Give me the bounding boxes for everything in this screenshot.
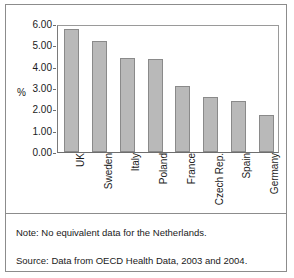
- source-text: Source: Data from OECD Health Data, 2003…: [16, 255, 278, 266]
- y-axis-tick-mark: [53, 110, 56, 111]
- y-axis-tick-label: 1.00: [22, 127, 52, 137]
- bar: [64, 29, 79, 152]
- footnote-divider: [6, 213, 286, 214]
- x-axis-tick-label: UK: [75, 153, 86, 213]
- bar: [259, 115, 274, 152]
- plot-area: [57, 25, 279, 153]
- x-axis-tick-label: Germany: [269, 153, 280, 213]
- y-axis-tick-mark: [53, 89, 56, 90]
- bar: [92, 41, 107, 152]
- figure-frame: % 6.005.004.003.002.001.000.00 UKSwedenI…: [5, 4, 287, 272]
- x-axis-tick-label: Czech Rep.: [214, 153, 225, 213]
- y-axis-tick-label: 3.00: [22, 84, 52, 94]
- x-axis-tick-labels: UKSwedenItalyPolandFranceCzech Rep.Spain…: [57, 155, 279, 213]
- bar: [175, 86, 190, 152]
- y-axis-tick-label: 2.00: [22, 105, 52, 115]
- bar: [120, 58, 135, 152]
- bar-series: [58, 26, 278, 152]
- y-axis-tick-mark: [53, 132, 56, 133]
- note-text: Note: No equivalent data for the Netherl…: [16, 227, 278, 238]
- x-axis-tick-label: France: [186, 153, 197, 213]
- y-axis-tick-label: 0.00: [22, 148, 52, 158]
- x-axis-tick-label: Spain: [241, 153, 252, 213]
- y-axis-tick-mark: [53, 46, 56, 47]
- x-axis-tick-label: Poland: [158, 153, 169, 213]
- y-axis-tick-labels: 6.005.004.003.002.001.000.00: [24, 5, 56, 213]
- bar: [203, 97, 218, 152]
- y-axis-tick-label: 6.00: [22, 20, 52, 30]
- y-axis-tick-mark: [53, 68, 56, 69]
- x-axis-tick-label: Sweden: [103, 153, 114, 213]
- bar: [231, 101, 246, 152]
- bar: [148, 59, 163, 152]
- x-axis-tick-label: Italy: [130, 153, 141, 213]
- bar-chart: % 6.005.004.003.002.001.000.00 UKSwedenI…: [6, 5, 286, 213]
- y-axis-tick-mark: [53, 153, 56, 154]
- y-axis-tick-mark: [53, 25, 56, 26]
- y-axis-tick-label: 5.00: [22, 41, 52, 51]
- y-axis-tick-label: 4.00: [22, 63, 52, 73]
